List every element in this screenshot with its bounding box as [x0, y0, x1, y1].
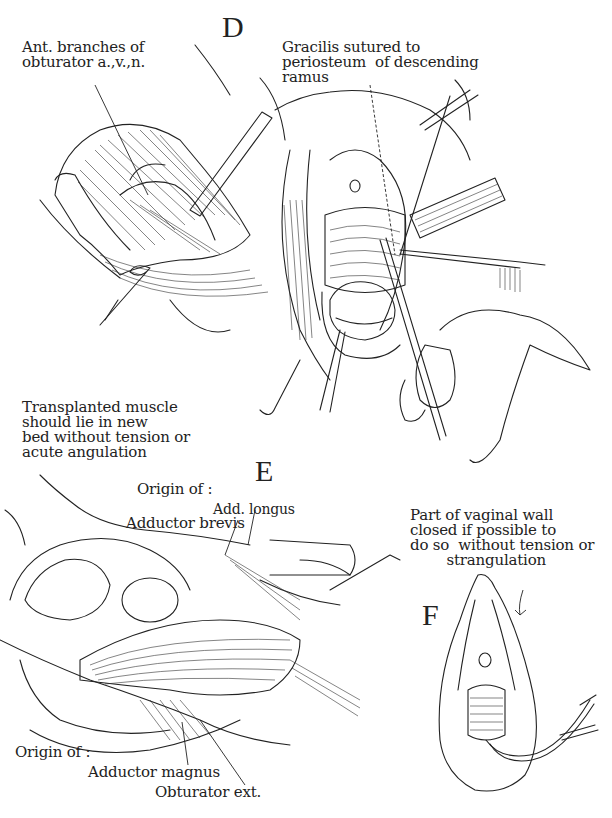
label-gracilis-sutured: Gracilis sutured to periosteum of descen…: [282, 40, 479, 85]
label-origin-of-bottom: Origin of :: [15, 745, 90, 760]
panel-letter-d: D: [222, 10, 244, 44]
label-ant-branches-obturator: Ant. branches of obturator a.,v.,n.: [22, 40, 145, 70]
label-adductor-brevis: Adductor brevis: [126, 516, 245, 531]
panel-letter-e: E: [255, 454, 273, 488]
leader-ant-branches: [95, 85, 148, 195]
label-vaginal-wall: Part of vaginal wall closed if possible …: [410, 508, 594, 568]
leader-adductor-magnus: [182, 722, 188, 765]
label-transplanted-muscle: Transplanted muscle should lie in new be…: [22, 400, 190, 460]
leader-vaginal-wall-arrow: [515, 590, 526, 615]
label-origin-of-top: Origin of :: [137, 482, 212, 497]
label-obturator-ext: Obturator ext.: [155, 785, 261, 800]
panel-f-drawing: [439, 575, 598, 791]
label-adductor-magnus: Adductor magnus: [88, 765, 220, 780]
leader-gracilis: [370, 85, 395, 255]
panel-letter-f: F: [422, 598, 439, 632]
